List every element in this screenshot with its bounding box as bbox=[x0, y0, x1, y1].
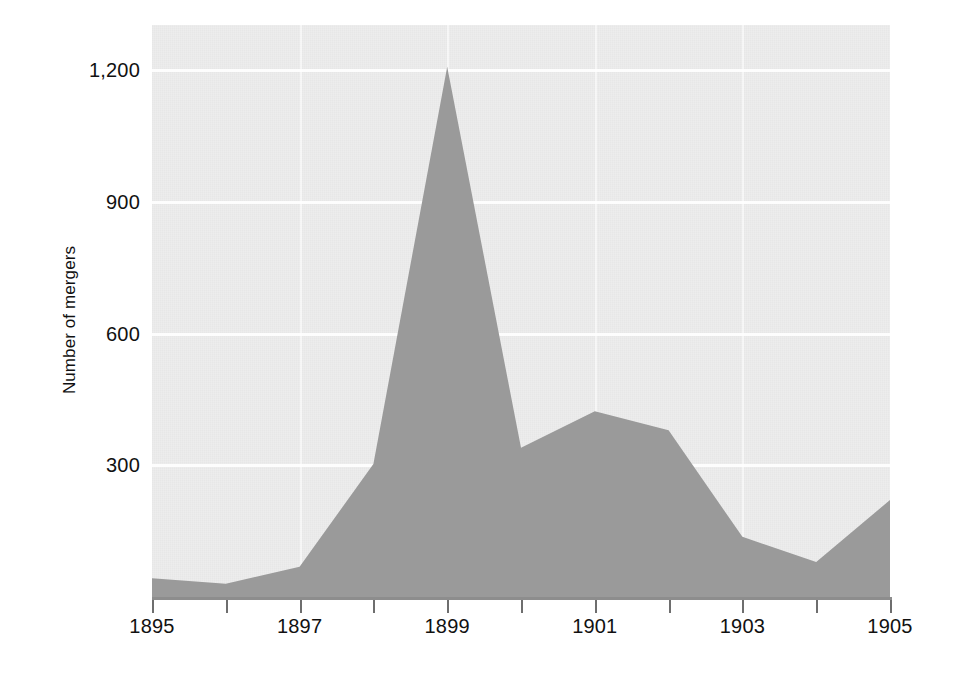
y-tick-label-900: 900 bbox=[48, 191, 140, 214]
x-tick-mark-1899 bbox=[447, 600, 449, 613]
x-tick-label-1905: 1905 bbox=[830, 615, 950, 638]
merger-area-chart-figure: Number of mergers 1,200900600300 1895189… bbox=[0, 0, 955, 679]
x-tick-label-1895: 1895 bbox=[92, 615, 212, 638]
x-tick-mark-1905 bbox=[890, 600, 892, 613]
plot-area bbox=[152, 25, 890, 597]
x-tick-label-1899: 1899 bbox=[387, 615, 507, 638]
x-tick-mark-1904 bbox=[816, 600, 818, 613]
y-tick-label-600: 600 bbox=[48, 322, 140, 345]
x-tick-label-1897: 1897 bbox=[240, 615, 360, 638]
x-tick-mark-1901 bbox=[595, 600, 597, 613]
area-series-mergers bbox=[152, 25, 890, 597]
y-axis-tick-labels: 1,200900600300 bbox=[48, 0, 140, 679]
x-tick-label-1903: 1903 bbox=[682, 615, 802, 638]
x-tick-mark-1900 bbox=[521, 600, 523, 613]
x-tick-label-1901: 1901 bbox=[535, 615, 655, 638]
x-tick-mark-1895 bbox=[152, 600, 154, 613]
x-tick-mark-1896 bbox=[226, 600, 228, 613]
x-tick-mark-1897 bbox=[300, 600, 302, 613]
y-tick-label-1200: 1,200 bbox=[48, 59, 140, 82]
x-tick-mark-1902 bbox=[669, 600, 671, 613]
y-tick-label-300: 300 bbox=[48, 454, 140, 477]
x-tick-mark-1903 bbox=[742, 600, 744, 613]
x-tick-mark-1898 bbox=[373, 600, 375, 613]
